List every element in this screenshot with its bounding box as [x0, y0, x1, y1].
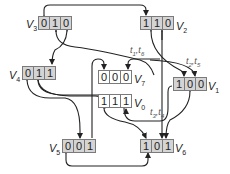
node-label-v6: V6 — [175, 142, 186, 159]
bit-cell: 0 — [162, 16, 174, 30]
bit-cell: 0 — [120, 70, 132, 84]
bit-cell: 0 — [195, 77, 207, 91]
edge-label-t3-t4: t3,t4 — [150, 107, 164, 121]
node-label-v7: V7 — [134, 73, 145, 90]
edge-label-t2-t5: t2,t5 — [186, 56, 200, 70]
edge-v5-v6 — [66, 153, 148, 166]
edge-v4-v5 — [27, 80, 80, 138]
node-label-v3: V3 — [26, 18, 37, 35]
edge-v2-v1 — [151, 31, 184, 76]
node-label-v4: V4 — [9, 69, 20, 86]
node-v6: 1 0 1 — [140, 139, 174, 152]
edge-label-t1-t6: t1,t6 — [130, 45, 144, 59]
bit-cell: 1 — [120, 94, 132, 108]
bit-cell: 1 — [44, 66, 56, 80]
state-transition-diagram: V3 0 1 0 1 1 0 V2 t1,t6 t2,t5 0 0 0 V7 1… — [0, 0, 230, 174]
node-label-v0: V0 — [134, 97, 145, 114]
bit-cell: 1 — [162, 139, 174, 153]
node-v1: 1 0 0 — [173, 77, 207, 90]
node-v5: 0 0 1 — [62, 139, 96, 152]
node-v7: 0 0 0 — [98, 70, 132, 83]
node-label-v2: V2 — [176, 20, 187, 37]
node-label-v1: V1 — [208, 80, 219, 97]
edge-v3-v7 — [52, 31, 67, 64]
node-v2: 1 1 0 — [140, 16, 174, 29]
bit-cell: 0 — [60, 16, 72, 30]
node-v3: 0 1 0 — [38, 16, 72, 29]
bit-cell: 1 — [84, 139, 96, 153]
node-v0: 1 1 1 — [98, 94, 132, 107]
node-v4: 0 1 1 — [22, 66, 56, 79]
edge-v3-v2 — [44, 5, 146, 16]
edge-v1-v6 — [166, 91, 190, 138]
node-label-v5: V5 — [49, 142, 60, 159]
edge-v4-v0 — [38, 80, 104, 108]
